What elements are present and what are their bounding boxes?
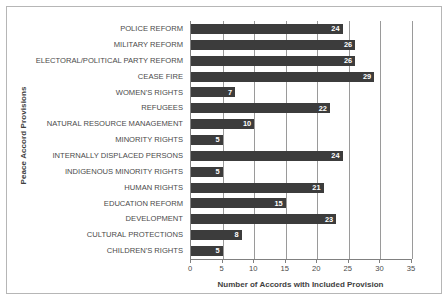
- bar[interactable]: 22: [191, 103, 330, 113]
- bar[interactable]: 26: [191, 56, 355, 66]
- plot-area: 2426262972210524521152385: [190, 21, 411, 259]
- category-label: CULTURAL PROTECTIONS: [87, 231, 183, 239]
- bar-row[interactable]: 26: [191, 37, 411, 53]
- x-axis-tick: [411, 259, 412, 263]
- x-axis-tick-label: 35: [407, 265, 415, 273]
- category-label: REFUGEES: [141, 104, 183, 112]
- bar-value-label: 24: [331, 152, 339, 159]
- x-axis-tick: [285, 259, 286, 263]
- category-row: ELECTORAL/POLITICAL PARTY REFORM: [27, 53, 187, 69]
- x-axis-tick: [316, 259, 317, 263]
- bar-row[interactable]: 10: [191, 116, 411, 132]
- bar[interactable]: 21: [191, 183, 324, 193]
- bar[interactable]: 23: [191, 214, 336, 224]
- x-axis-tick: [348, 259, 349, 263]
- bar[interactable]: 5: [191, 167, 223, 177]
- x-axis-tick-label: 10: [249, 265, 257, 273]
- category-row: MINORITY RIGHTS: [27, 132, 187, 148]
- bar-value-label: 22: [319, 105, 327, 112]
- category-label: NATURAL RESOURCE MANAGEMENT: [47, 120, 183, 128]
- bar-value-label: 5: [215, 136, 219, 143]
- bar-row[interactable]: 5: [191, 132, 411, 148]
- x-axis-line: [190, 259, 411, 260]
- bar[interactable]: 5: [191, 246, 223, 256]
- x-axis-tick-label: 0: [188, 265, 192, 273]
- category-label: MINORITY RIGHTS: [115, 136, 183, 144]
- x-axis-tick-label: 20: [312, 265, 320, 273]
- category-row: CULTURAL PROTECTIONS: [27, 227, 187, 243]
- bar[interactable]: 24: [191, 24, 343, 34]
- category-label: DEVELOPMENT: [126, 215, 183, 223]
- category-row: POLICE REFORM: [27, 21, 187, 37]
- bar-value-label: 26: [344, 41, 352, 48]
- chart-frame: Peace Accord Provisions POLICE REFORMMIL…: [6, 6, 442, 294]
- category-label: CEASE FIRE: [138, 73, 183, 81]
- category-label: ELECTORAL/POLITICAL PARTY REFORM: [36, 57, 183, 65]
- x-axis-tick: [379, 259, 380, 263]
- bar-row[interactable]: 5: [191, 164, 411, 180]
- bar-row[interactable]: 15: [191, 195, 411, 211]
- bar[interactable]: 24: [191, 151, 343, 161]
- bar-value-label: 23: [325, 216, 333, 223]
- category-row: EDUCATION REFORM: [27, 195, 187, 211]
- bar-row[interactable]: 22: [191, 100, 411, 116]
- bar-value-label: 21: [312, 184, 320, 191]
- bar-value-label: 26: [344, 57, 352, 64]
- category-label: INTERNALLY DISPLACED PERSONS: [52, 152, 183, 160]
- category-row: NATURAL RESOURCE MANAGEMENT: [27, 116, 187, 132]
- bar-value-label: 24: [331, 25, 339, 32]
- x-axis-tick-labels: 05101520253035: [190, 265, 411, 277]
- bar-row[interactable]: 26: [191, 53, 411, 69]
- bar[interactable]: 15: [191, 198, 286, 208]
- bar[interactable]: 5: [191, 135, 223, 145]
- category-row: DEVELOPMENT: [27, 211, 187, 227]
- category-label: MILITARY REFORM: [114, 41, 183, 49]
- x-axis-tick-label: 30: [375, 265, 383, 273]
- bar[interactable]: 8: [191, 230, 242, 240]
- bar-row[interactable]: 29: [191, 69, 411, 85]
- y-axis-category-labels: POLICE REFORMMILITARY REFORMELECTORAL/PO…: [27, 21, 187, 259]
- bar-value-label: 15: [274, 200, 282, 207]
- bar-row[interactable]: 24: [191, 21, 411, 37]
- bar-row[interactable]: 21: [191, 180, 411, 196]
- category-row: WOMEN'S RIGHTS: [27, 84, 187, 100]
- bar[interactable]: 26: [191, 40, 355, 50]
- bar-row[interactable]: 5: [191, 243, 411, 259]
- bar-value-label: 5: [215, 247, 219, 254]
- bar[interactable]: 10: [191, 119, 254, 129]
- bar-value-label: 10: [243, 120, 251, 127]
- gridline: [412, 21, 413, 259]
- category-label: WOMEN'S RIGHTS: [116, 89, 183, 97]
- bar-row[interactable]: 7: [191, 84, 411, 100]
- x-axis-tick: [190, 259, 191, 263]
- bar-value-label: 5: [215, 168, 219, 175]
- category-row: CHILDREN'S RIGHTS: [27, 243, 187, 259]
- x-axis-tick-label: 25: [344, 265, 352, 273]
- bar-row[interactable]: 24: [191, 148, 411, 164]
- bar-row[interactable]: 8: [191, 227, 411, 243]
- category-label: CHILDREN'S RIGHTS: [107, 247, 183, 255]
- category-label: HUMAN RIGHTS: [124, 184, 183, 192]
- x-axis-tick: [222, 259, 223, 263]
- bar-value-label: 8: [234, 231, 238, 238]
- bar-row[interactable]: 23: [191, 211, 411, 227]
- category-row: HUMAN RIGHTS: [27, 180, 187, 196]
- category-label: INDIGENOUS MINORITY RIGHTS: [65, 168, 183, 176]
- category-row: INDIGENOUS MINORITY RIGHTS: [27, 164, 187, 180]
- category-row: REFUGEES: [27, 100, 187, 116]
- bar-value-label: 7: [228, 89, 232, 96]
- bar-value-label: 29: [363, 73, 371, 80]
- category-row: CEASE FIRE: [27, 69, 187, 85]
- category-label: POLICE REFORM: [120, 25, 183, 33]
- x-axis-title: Number of Accords with Included Provisio…: [190, 281, 411, 289]
- bar-series: 2426262972210524521152385: [191, 21, 411, 259]
- bar[interactable]: 29: [191, 72, 374, 82]
- x-axis-tick: [253, 259, 254, 263]
- x-axis-tick-label: 5: [219, 265, 223, 273]
- category-row: MILITARY REFORM: [27, 37, 187, 53]
- chart-figure: Peace Accord Provisions POLICE REFORMMIL…: [0, 0, 448, 306]
- bar[interactable]: 7: [191, 87, 235, 97]
- x-axis-tick-label: 15: [280, 265, 288, 273]
- category-label: EDUCATION REFORM: [104, 200, 183, 208]
- category-row: INTERNALLY DISPLACED PERSONS: [27, 148, 187, 164]
